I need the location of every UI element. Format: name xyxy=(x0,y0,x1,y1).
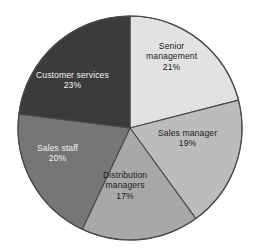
pie-slice-label-sales-staff: Sales staff20% xyxy=(37,143,78,164)
pie-slice-label-distribution-managers: Distributionmanagers17% xyxy=(103,170,147,201)
pie-slice-label-text-senior-management: Senior xyxy=(146,41,197,51)
pie-chart-figure: Seniormanagement21%Sales manager19%Distr… xyxy=(0,0,255,249)
pie-slice-label-customer-services: Customer services23% xyxy=(36,70,109,91)
pie-slice-value-sales-staff: 20% xyxy=(37,153,78,163)
pie-slice-label-text2-senior-management: management xyxy=(146,51,197,61)
pie-slice-label-text-customer-services: Customer services xyxy=(36,70,109,80)
pie-chart-svg xyxy=(0,0,255,249)
pie-slice-label-senior-management: Seniormanagement21% xyxy=(146,41,197,72)
pie-slice-label-text-sales-manager: Sales manager xyxy=(158,128,217,138)
pie-slice-value-senior-management: 21% xyxy=(146,62,197,72)
pie-slice-label-text2-distribution-managers: managers xyxy=(103,180,147,190)
pie-slice-value-distribution-managers: 17% xyxy=(103,191,147,201)
pie-slice-label-sales-manager: Sales manager19% xyxy=(158,128,217,149)
pie-slice-value-customer-services: 23% xyxy=(36,80,109,90)
pie-slice-label-text-distribution-managers: Distribution xyxy=(103,170,147,180)
pie-slice-value-sales-manager: 19% xyxy=(158,138,217,148)
pie-slice-label-text-sales-staff: Sales staff xyxy=(37,143,78,153)
